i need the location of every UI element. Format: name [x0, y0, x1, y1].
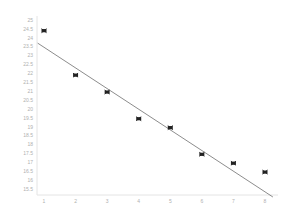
x-tick-label: 8: [264, 198, 267, 204]
data-points: [42, 29, 268, 174]
y-tick-label: 17.5: [23, 150, 33, 156]
x-marker-icon: [73, 73, 78, 77]
x-tick-label: 6: [200, 198, 203, 204]
y-tick-label: 16.5: [23, 168, 33, 174]
y-tick-label: 19: [27, 124, 33, 130]
y-tick-label: 18.5: [23, 132, 33, 138]
trend-line: [38, 43, 273, 197]
y-tick-label: 22.5: [23, 61, 33, 67]
x-tick-label: 4: [137, 198, 140, 204]
y-tick-label: 23.5: [23, 43, 33, 49]
y-tick-label: 24.5: [23, 26, 33, 32]
axes: [37, 16, 278, 195]
y-tick-label: 15.5: [23, 186, 33, 192]
x-tick-label: 5: [169, 198, 172, 204]
y-tick-label: 23: [27, 52, 33, 58]
x-marker-icon: [263, 170, 268, 174]
y-tick-label: 24: [27, 35, 33, 41]
x-tick-label: 3: [106, 198, 109, 204]
y-tick-label: 21.5: [23, 79, 33, 85]
y-tick-label: 16: [27, 177, 33, 183]
y-tick-label: 22: [27, 70, 33, 76]
x-marker-icon: [199, 152, 204, 156]
y-tick-label: 17: [27, 159, 33, 165]
x-marker-icon: [42, 29, 47, 33]
scatter-chart: 2524.52423.52322.52221.52120.52019.51918…: [0, 0, 288, 215]
x-marker-icon: [105, 90, 110, 94]
y-tick-label: 18: [27, 141, 33, 147]
y-tick-label: 19.5: [23, 115, 33, 121]
x-tick-label: 7: [232, 198, 235, 204]
y-tick-label: 20: [27, 106, 33, 112]
x-tick-label: 2: [74, 198, 77, 204]
y-tick-label: 21: [27, 88, 33, 94]
y-axis-ticks: 2524.52423.52322.52221.52120.52019.51918…: [23, 17, 33, 192]
x-marker-icon: [168, 126, 173, 130]
x-axis-ticks: 12345678: [43, 198, 267, 204]
x-marker-icon: [136, 117, 141, 121]
x-marker-icon: [231, 161, 236, 165]
y-tick-label: 20.5: [23, 97, 33, 103]
linear-fit-line: [38, 43, 273, 197]
x-tick-label: 1: [43, 198, 46, 204]
y-tick-label: 25: [27, 17, 33, 23]
